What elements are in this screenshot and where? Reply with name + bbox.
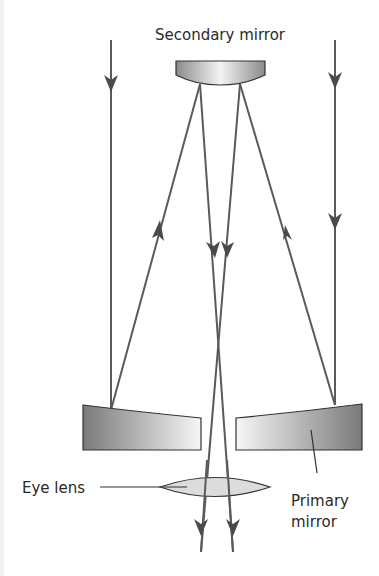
arrow-up-icon [283, 225, 292, 240]
right-reflected-ray [240, 84, 335, 405]
arrow-down-icon [194, 519, 208, 536]
primary-mirror-label-line1: Primary [291, 492, 349, 510]
primary-mirror-label-line2: mirror [291, 513, 338, 531]
incoming-rays [111, 40, 335, 410]
left-reflected-ray [111, 84, 200, 410]
eye-lens-label: Eye lens [22, 479, 85, 497]
reflected-rays [111, 84, 335, 410]
reflected-arrows [152, 220, 292, 241]
telescope-diagram: Secondary mirror [0, 0, 379, 576]
primary-mirror-left [83, 405, 201, 450]
converging-arrows [206, 241, 234, 258]
secondary-mirror [176, 61, 265, 85]
exit-arrows [194, 519, 240, 536]
arrow-down-icon [226, 519, 240, 536]
incoming-arrows [104, 72, 342, 230]
primary-mirror-right [236, 404, 362, 450]
secondary-mirror-label: Secondary mirror [155, 26, 286, 44]
